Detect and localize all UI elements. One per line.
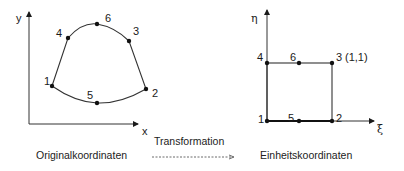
node-label-2: 2 <box>152 87 158 99</box>
corner-coordinate-annotation: (1,1) <box>345 51 368 63</box>
node-label-3: 3 <box>133 25 139 37</box>
node-2 <box>144 87 148 91</box>
node-label-6: 6 <box>105 12 111 24</box>
node-label-5: 5 <box>87 89 93 101</box>
node-1 <box>50 84 54 88</box>
node-5 <box>95 101 99 105</box>
unit-node-label-5: 5 <box>288 112 294 124</box>
unit-node-label-6: 6 <box>290 51 296 63</box>
unit-element-nodes <box>265 61 334 123</box>
node-label-1: 1 <box>44 75 50 87</box>
node-4 <box>66 36 70 40</box>
unit-node-5 <box>297 119 301 123</box>
unit-node-label-1: 1 <box>258 113 264 125</box>
eta-axis-label: η <box>251 12 258 25</box>
unit-coordinate-system: η ξ 1 2 3 (1,1) 4 5 6 <box>251 10 383 136</box>
transformation-diagram: y x 1 2 3 4 5 6 η ξ <box>0 0 404 171</box>
unit-node-label-4: 4 <box>257 51 263 63</box>
node-label-4: 4 <box>56 27 62 39</box>
unit-node-1 <box>265 119 269 123</box>
y-axis-label: y <box>16 12 22 24</box>
unit-node-2 <box>330 119 334 123</box>
unit-coordinates-caption: Einheitskoordinaten <box>260 149 352 161</box>
unit-node-label-3: 3 <box>336 51 342 63</box>
unit-node-label-2: 2 <box>336 112 342 124</box>
x-axis-label: x <box>142 125 148 137</box>
transformation-label: Transformation <box>154 135 224 147</box>
unit-node-4 <box>265 61 269 65</box>
node-3 <box>127 39 131 43</box>
original-coordinates-caption: Originalkoordinaten <box>36 149 127 161</box>
node-6 <box>95 22 99 26</box>
curved-element-outline <box>52 24 146 103</box>
original-coordinate-system: y x 1 2 3 4 5 6 <box>16 12 158 137</box>
unit-node-6 <box>297 61 301 65</box>
xi-axis-label: ξ <box>377 123 383 136</box>
unit-square-element <box>267 63 332 121</box>
unit-node-3 <box>330 61 334 65</box>
